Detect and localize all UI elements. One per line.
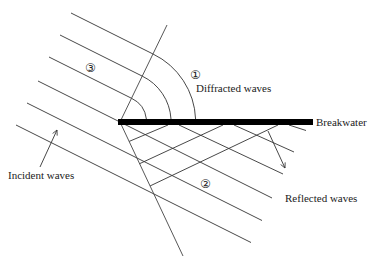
reflected-crest	[129, 125, 168, 141]
label-diffracted-waves: Diffracted waves	[196, 82, 271, 94]
incident-direction-arrow	[40, 130, 57, 167]
incident-crest	[60, 35, 142, 76]
label-incident-waves: Incident waves	[8, 169, 74, 181]
incident-crest-lee	[289, 125, 306, 131]
reflected-direction-arrow	[268, 131, 285, 168]
diffraction-boundary-ray-upper	[120, 25, 167, 122]
diffracted-wave-crests	[132, 54, 196, 119]
region-marker-2: ②	[200, 177, 211, 191]
diffracted-crest-arc	[132, 98, 147, 119]
reflected-crest	[140, 125, 223, 164]
label-breakwater: Breakwater	[316, 116, 367, 128]
wave-diffraction-diagram: Incident waves Diffracted waves Breakwat…	[0, 0, 372, 267]
region-marker-3: ③	[85, 61, 96, 75]
breakwater	[118, 119, 313, 125]
incident-crest-lee	[234, 125, 294, 152]
reflected-crest	[150, 125, 278, 186]
diffracted-crest-arc	[153, 54, 196, 119]
label-reflected-waves: Reflected waves	[285, 192, 357, 204]
region-marker-1: ①	[190, 68, 201, 82]
incident-crest	[71, 13, 153, 54]
shadow-boundary-ray-lower	[120, 122, 183, 256]
diffracted-crest-arc	[142, 76, 171, 119]
incident-crest-lee	[179, 125, 283, 174]
